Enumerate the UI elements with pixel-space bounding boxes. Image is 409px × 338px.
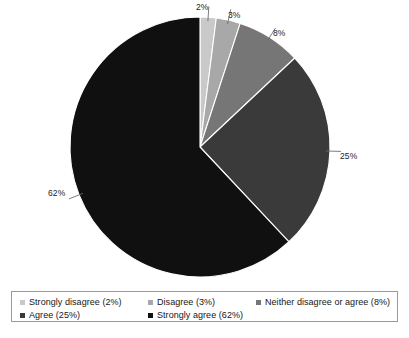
legend-item[interactable]: Disagree (3%) bbox=[148, 295, 215, 309]
legend-swatch-icon bbox=[20, 313, 25, 318]
pie-chart-figure: 2%3%8%25%62% Strongly disagree (2%)Disag… bbox=[0, 0, 409, 338]
pie-slices-group bbox=[70, 17, 330, 277]
slice-data-label: 3% bbox=[228, 11, 241, 20]
legend-item-label: Strongly agree (62%) bbox=[157, 311, 243, 320]
legend-item-label: Agree (25%) bbox=[29, 311, 80, 320]
legend-item-label: Strongly disagree (2%) bbox=[29, 298, 122, 307]
legend-item[interactable]: Agree (25%) bbox=[20, 308, 80, 322]
slice-data-label: 8% bbox=[273, 29, 286, 38]
legend-swatch-icon bbox=[148, 300, 153, 305]
slice-data-label: 62% bbox=[48, 189, 65, 198]
legend-item[interactable]: Neither disagree or agree (8%) bbox=[256, 295, 390, 309]
legend-swatch-icon bbox=[148, 313, 153, 318]
legend-row: Agree (25%)Strongly agree (62%) bbox=[12, 308, 397, 322]
legend-swatch-icon bbox=[256, 300, 261, 305]
legend-row: Strongly disagree (2%)Disagree (3%)Neith… bbox=[12, 295, 397, 309]
legend-item[interactable]: Strongly disagree (2%) bbox=[20, 295, 122, 309]
slice-data-label: 2% bbox=[196, 3, 209, 12]
legend-item[interactable]: Strongly agree (62%) bbox=[148, 308, 243, 322]
chart-legend: Strongly disagree (2%)Disagree (3%)Neith… bbox=[11, 291, 398, 322]
legend-item-label: Disagree (3%) bbox=[157, 298, 215, 307]
legend-swatch-icon bbox=[20, 300, 25, 305]
legend-item-label: Neither disagree or agree (8%) bbox=[265, 298, 390, 307]
slice-data-label: 25% bbox=[340, 152, 357, 161]
pie-chart-canvas bbox=[0, 0, 409, 285]
